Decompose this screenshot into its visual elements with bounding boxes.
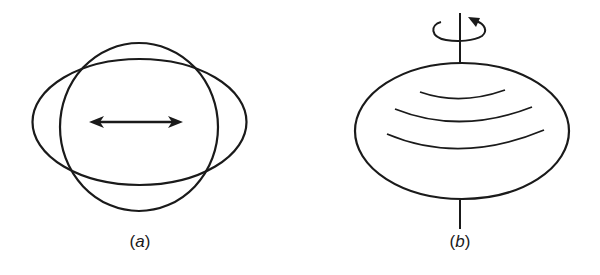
- double-headed-arrow-icon: [89, 116, 183, 128]
- latitude-line-2: [395, 107, 532, 122]
- latitude-line-3: [387, 130, 544, 149]
- latitude-line-1: [420, 90, 505, 99]
- panel-b: [355, 13, 569, 229]
- panel-a: [33, 43, 247, 211]
- diagram-canvas: [0, 0, 600, 275]
- panel-a-caption: (a): [130, 232, 151, 252]
- panel-b-caption: (b): [450, 232, 471, 252]
- latitude-lines: [387, 90, 544, 149]
- panel-a-letter: a: [135, 232, 144, 251]
- oblate-ellipsoid: [355, 63, 569, 199]
- panel-b-letter: b: [455, 232, 464, 251]
